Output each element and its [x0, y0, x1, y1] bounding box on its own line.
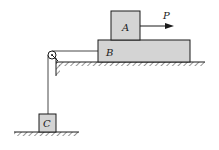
block-a: A	[111, 11, 140, 40]
block-a-label: A	[121, 22, 129, 33]
force-label-p: P	[162, 10, 170, 21]
pulley-icon	[48, 51, 58, 61]
block-b: B	[98, 40, 190, 62]
block-c: C	[39, 114, 56, 132]
lower-ground-surface	[14, 132, 79, 136]
block-b-label: B	[105, 47, 113, 58]
upper-ground-surface	[56, 62, 205, 66]
block-c-label: C	[43, 118, 51, 129]
force-arrow-p: P	[140, 10, 174, 29]
pulley-block-diagram: B A C P	[0, 0, 219, 150]
